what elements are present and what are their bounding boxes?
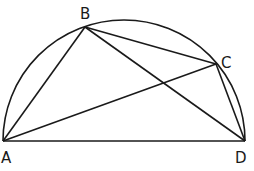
segment-BC xyxy=(85,27,216,64)
segment-AC xyxy=(3,64,216,141)
semicircle-diagram: B C A D xyxy=(0,0,254,171)
label-A: A xyxy=(1,149,12,167)
segment-AB xyxy=(3,27,85,141)
segment-CD xyxy=(216,64,245,141)
label-D: D xyxy=(235,149,247,167)
label-C: C xyxy=(221,54,231,72)
segment-BD xyxy=(85,27,245,141)
label-B: B xyxy=(80,5,90,23)
